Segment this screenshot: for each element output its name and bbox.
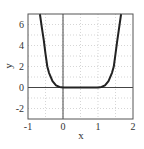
y-tick-label: -2 [16, 103, 24, 114]
x-tick-label: 2 [131, 121, 136, 132]
x-tick-label: 1 [96, 121, 101, 132]
y-tick-label: 2 [19, 61, 24, 72]
y-tick-label: 4 [19, 40, 24, 51]
chart: -1012 -20246 x y [0, 0, 144, 149]
y-tick-labels: -20246 [16, 19, 24, 114]
y-axis-label: y [2, 63, 14, 69]
y-tick-label: 6 [19, 19, 24, 30]
x-tick-label: 0 [61, 121, 66, 132]
x-axis-label: x [78, 129, 84, 141]
x-tick-label: -1 [24, 121, 32, 132]
grid-lines [28, 14, 133, 119]
y-tick-label: 0 [19, 82, 24, 93]
